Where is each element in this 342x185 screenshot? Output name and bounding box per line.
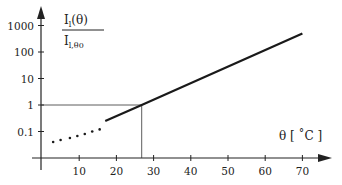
y-tick-label: 1	[27, 99, 34, 111]
y-tick-label: 100	[14, 46, 34, 58]
y-tick-label: 10	[21, 73, 34, 85]
x-tick-label: 10	[73, 165, 86, 177]
y-label-numerator: Il(θ)	[64, 13, 88, 29]
x-tick-label: 60	[259, 165, 272, 177]
dotted-curve-point	[76, 135, 79, 138]
x-tick-label: 40	[184, 165, 197, 177]
solid-curve	[105, 33, 302, 120]
series	[41, 33, 302, 158]
x-tick-label: 70	[296, 165, 309, 177]
y-tick-label: 0.1	[17, 126, 34, 138]
dotted-curve-point	[69, 137, 72, 140]
x-tick-label: 30	[147, 165, 160, 177]
x-tick-label: 50	[221, 165, 234, 177]
x-tick-label: 20	[110, 165, 123, 177]
dotted-curve-point	[83, 133, 86, 136]
dotted-curve-point	[91, 130, 94, 133]
dotted-curve-point	[52, 141, 55, 144]
dotted-curve-point	[98, 128, 101, 131]
dotted-curve-point	[59, 139, 62, 142]
x-axis-title: θ [ ˚C ]	[279, 128, 322, 143]
y-label-denominator: Il,θ0	[64, 34, 84, 50]
x-axis-arrow-icon	[318, 154, 332, 162]
chart: 102030405060700.11101001000 Il(θ) Il,θ0 …	[0, 0, 342, 185]
y-tick-label: 1000	[7, 20, 34, 32]
y-axis-arrow-icon	[37, 6, 45, 19]
